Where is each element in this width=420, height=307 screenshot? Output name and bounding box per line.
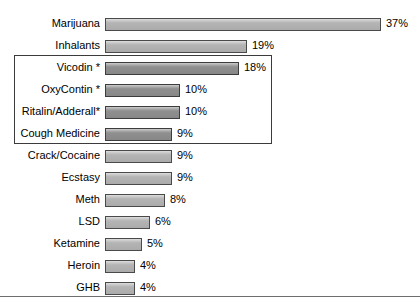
bar-row: Ketamine5% xyxy=(0,238,420,252)
bar-category-label: Crack/Cocaine xyxy=(0,148,100,163)
bar-category-label: OxyContin * xyxy=(0,82,100,97)
bar-row: LSD6% xyxy=(0,216,420,230)
bar-value-label: 10% xyxy=(185,104,207,119)
bar-track xyxy=(105,150,172,163)
bottom-divider-rule xyxy=(0,296,420,297)
bar xyxy=(105,18,381,31)
bar-value-label: 37% xyxy=(386,16,408,31)
bar-track xyxy=(105,128,172,141)
bar-row: OxyContin *10% xyxy=(0,84,420,98)
bar-row: Meth8% xyxy=(0,194,420,208)
bar-category-label: LSD xyxy=(0,214,100,229)
bar xyxy=(105,282,135,295)
bar-category-label: Ritalin/Adderall* xyxy=(0,104,100,119)
bar-value-label: 10% xyxy=(185,82,207,97)
bar xyxy=(105,106,180,119)
bar xyxy=(105,62,239,75)
bar-track xyxy=(105,216,150,229)
bar xyxy=(105,172,172,185)
bar-chart: Marijuana37%Inhalants19%Vicodin *18%OxyC… xyxy=(0,0,420,307)
bar-row: Vicodin *18% xyxy=(0,62,420,76)
bar-track xyxy=(105,194,165,207)
bar xyxy=(105,238,142,251)
bar-row: GHB4% xyxy=(0,282,420,296)
bar-value-label: 4% xyxy=(140,280,156,295)
bar-category-label: Inhalants xyxy=(0,38,100,53)
bar-category-label: Ketamine xyxy=(0,236,100,251)
bar xyxy=(105,150,172,163)
bar-category-label: Heroin xyxy=(0,258,100,273)
bar xyxy=(105,216,150,229)
bar-category-label: Cough Medicine xyxy=(0,126,100,141)
bar-value-label: 9% xyxy=(177,148,193,163)
bar-value-label: 6% xyxy=(155,214,171,229)
bar-value-label: 9% xyxy=(177,126,193,141)
bar-value-label: 19% xyxy=(252,38,274,53)
bar-row: Ritalin/Adderall*10% xyxy=(0,106,420,120)
bar-category-label: Vicodin * xyxy=(0,60,100,75)
bar xyxy=(105,194,165,207)
bar xyxy=(105,40,247,53)
bar-category-label: Marijuana xyxy=(0,16,100,31)
bar-track xyxy=(105,260,135,273)
bar-row: Inhalants19% xyxy=(0,40,420,54)
bar-row: Cough Medicine9% xyxy=(0,128,420,142)
bar-row: Marijuana37% xyxy=(0,18,420,32)
bar-value-label: 18% xyxy=(244,60,266,75)
bar-category-label: Ecstasy xyxy=(0,170,100,185)
bar xyxy=(105,128,172,141)
bar-track xyxy=(105,282,135,295)
bar-value-label: 5% xyxy=(147,236,163,251)
bar-track xyxy=(105,62,239,75)
bar-value-label: 9% xyxy=(177,170,193,185)
bar-track xyxy=(105,106,180,119)
bar-row: Heroin4% xyxy=(0,260,420,274)
bar-value-label: 4% xyxy=(140,258,156,273)
bar-track xyxy=(105,84,180,97)
bar-track xyxy=(105,238,142,251)
bar-track xyxy=(105,18,381,31)
bar xyxy=(105,260,135,273)
bar-value-label: 8% xyxy=(170,192,186,207)
bar-track xyxy=(105,172,172,185)
bar-track xyxy=(105,40,247,53)
bar xyxy=(105,84,180,97)
bar-category-label: Meth xyxy=(0,192,100,207)
bar-row: Crack/Cocaine9% xyxy=(0,150,420,164)
bar-category-label: GHB xyxy=(0,280,100,295)
bar-row: Ecstasy9% xyxy=(0,172,420,186)
